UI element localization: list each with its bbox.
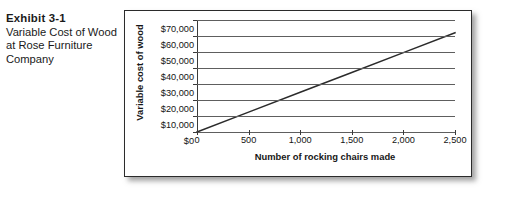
exhibit-caption: Exhibit 3-1 Variable Cost of Wood at Ros… <box>6 12 118 66</box>
x-axis-tick-label: 0 <box>194 135 199 145</box>
gridline-horizontal <box>197 20 455 21</box>
gridline-horizontal <box>197 84 455 85</box>
gridline-horizontal <box>197 132 455 133</box>
x-axis-tick-labels: 05001,0001,5002,0002,500 <box>197 135 455 149</box>
y-axis-tick-label: $20,000 <box>161 104 194 114</box>
y-axis-tick-label: $50,000 <box>161 56 194 66</box>
gridline-horizontal <box>197 100 455 101</box>
y-axis-tick-mark <box>193 52 197 53</box>
y-axis-tick-label: $0 <box>184 136 194 146</box>
gridline-horizontal <box>197 68 455 69</box>
y-axis-tick-label: $30,000 <box>161 88 194 98</box>
y-axis-tick-mark <box>193 36 197 37</box>
y-axis-tick-mark <box>193 68 197 69</box>
exhibit-description: Variable Cost of Wood at Rose Furniture … <box>6 26 118 67</box>
chart-panel: Variable cost of wood $0$10,000$20,000$3… <box>124 10 472 177</box>
y-axis-tick-label: $60,000 <box>161 40 194 50</box>
plot-area <box>197 20 455 132</box>
y-axis-tick-labels: $0$10,000$20,000$30,000$40,000$50,000$60… <box>138 20 194 132</box>
y-axis-tick-mark <box>193 20 197 21</box>
exhibit-label: Exhibit 3-1 <box>6 12 118 26</box>
x-axis-title: Number of rocking chairs made <box>185 151 465 162</box>
x-axis-tick-label: 500 <box>241 135 256 145</box>
x-axis-tick-label: 1,500 <box>340 135 363 145</box>
y-axis-tick-mark <box>193 100 197 101</box>
x-axis-tick-label: 2,000 <box>392 135 415 145</box>
x-axis-tick-label: 1,000 <box>289 135 312 145</box>
y-axis-tick-mark <box>193 116 197 117</box>
data-line-variable-cost <box>197 33 455 132</box>
x-axis-tick-label: 2,500 <box>444 135 467 145</box>
gridline-horizontal <box>197 52 455 53</box>
y-axis-tick-mark <box>193 84 197 85</box>
chart-plot-wrapper: Variable cost of wood $0$10,000$20,000$3… <box>125 11 471 176</box>
y-axis-tick-label: $40,000 <box>161 72 194 82</box>
gridline-horizontal <box>197 36 455 37</box>
y-axis-tick-label: $10,000 <box>161 120 194 130</box>
y-axis-tick-label: $70,000 <box>161 24 194 34</box>
gridline-horizontal <box>197 116 455 117</box>
